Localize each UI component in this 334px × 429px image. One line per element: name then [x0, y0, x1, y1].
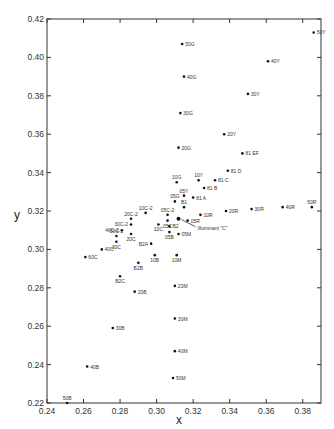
point-marker [119, 275, 122, 278]
data-point: 50C-2 [110, 228, 124, 237]
point-marker [183, 194, 186, 197]
y-tick-label: 0.32 [27, 206, 44, 216]
data-point: 10G [172, 174, 182, 183]
point-label: 30Y [251, 91, 261, 97]
point-label: 40C [105, 246, 115, 252]
point-label: B2C [115, 278, 125, 284]
point-marker [192, 196, 195, 199]
point-label: 20C-2 [124, 211, 138, 217]
data-point: 05C [163, 219, 173, 228]
data-point: 20G [177, 145, 191, 151]
point-marker [150, 242, 153, 245]
point-marker [214, 179, 217, 182]
point-marker [175, 254, 178, 257]
data-point: 81 B [203, 185, 218, 191]
point-marker [144, 212, 147, 215]
x-tick-label: 0.34 [221, 406, 238, 416]
point-marker [101, 248, 104, 251]
data-point: 20B [133, 289, 147, 295]
data-point: 20Y [223, 131, 237, 137]
point-label: 05C [163, 223, 173, 229]
data-point: 40R [281, 204, 295, 210]
point-marker [137, 262, 140, 265]
point-label: 10G [172, 174, 182, 180]
y-tick-label: 0.36 [27, 129, 44, 139]
data-point: 50Y [312, 29, 326, 35]
data-point: 50M [172, 375, 186, 381]
point-marker [130, 233, 133, 236]
point-marker [174, 317, 177, 320]
y-tick-label: 0.24 [27, 360, 44, 370]
x-tick-label: 0.38 [294, 406, 311, 416]
point-marker [166, 219, 169, 222]
data-point: 20C [126, 233, 136, 242]
data-point: 40C [101, 246, 115, 252]
data-point: 81 C [214, 177, 229, 183]
point-label: 81 A [196, 195, 207, 201]
y-tick-label: 0.34 [27, 168, 44, 178]
y-axis-title: y [14, 208, 20, 222]
point-marker [267, 60, 270, 63]
data-point: 50R [307, 199, 317, 208]
x-axis-ticks: 0.240.260.280.300.320.340.360.38 [39, 19, 312, 416]
point-marker [177, 233, 180, 236]
point-label: 10C-2 [139, 205, 153, 211]
point-label: B2A [139, 241, 149, 247]
point-label: 30R [255, 206, 265, 212]
x-tick-label: 0.26 [75, 406, 92, 416]
point-label: 40M [178, 348, 188, 354]
data-point: 10B [150, 254, 160, 263]
point-marker [247, 93, 250, 96]
point-marker [181, 43, 184, 46]
data-point: 10C-2 [139, 205, 153, 214]
data-point: 05Y [180, 188, 190, 197]
x-tick-label: 0.36 [258, 406, 275, 416]
point-label: 10M [172, 257, 182, 263]
point-label: 50M [176, 375, 186, 381]
point-marker [166, 214, 169, 217]
y-tick-label: 0.22 [27, 398, 44, 408]
data-point: 81 A [192, 195, 207, 201]
point-marker [227, 169, 230, 172]
data-point: B2C [115, 275, 125, 284]
y-tick-label: 0.38 [27, 91, 44, 101]
point-label: 20Y [227, 131, 237, 137]
point-marker [115, 235, 118, 238]
point-label: 50Y [317, 29, 327, 35]
point-label: 10C [154, 226, 164, 232]
point-label: 05C-2 [161, 207, 175, 213]
point-marker [130, 217, 133, 220]
data-point: 10C [154, 223, 164, 232]
point-marker [86, 365, 89, 368]
point-label: 40R [286, 204, 296, 210]
data-point: 81 D [227, 168, 242, 174]
point-label: 05G [170, 193, 180, 199]
data-point: 05M [177, 231, 191, 237]
point-label: 20C [126, 236, 136, 242]
data-point: B2A [139, 241, 153, 247]
point-marker [223, 133, 226, 136]
y-tick-label: 0.30 [27, 244, 44, 254]
point-marker [203, 187, 206, 190]
point-marker [183, 75, 186, 78]
data-point: 30Y [247, 91, 261, 97]
point-marker [172, 377, 175, 380]
data-point: 10Y [194, 172, 204, 181]
point-label: 81 B [207, 185, 218, 191]
point-label: 81 D [231, 168, 242, 174]
point-marker [174, 350, 177, 353]
data-point: 30R [250, 206, 264, 212]
data-point: 30M [174, 316, 188, 322]
point-marker [174, 200, 177, 203]
point-label: 20M [178, 283, 188, 289]
point-label: 05R [191, 218, 201, 224]
point-marker [241, 152, 244, 155]
point-label: 50R [307, 199, 317, 205]
point-label: 50G [185, 41, 195, 47]
data-point: 40Y [267, 58, 281, 64]
point-marker [186, 219, 189, 222]
data-point: 30G [179, 110, 193, 116]
point-label: 40Y [271, 58, 281, 64]
point-label: 40G [187, 74, 197, 80]
point-marker [157, 223, 160, 226]
